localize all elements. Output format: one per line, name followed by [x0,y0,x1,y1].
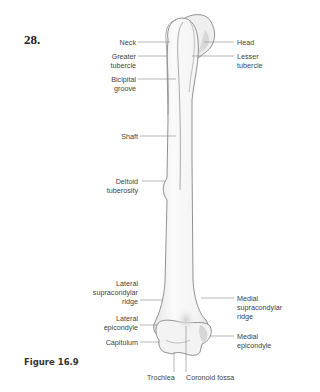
label-head: Head [237,38,254,47]
label-lateral-epicondyle: Lateral epicondyle [104,314,138,332]
label-bicipital-groove: Bicipital groove [111,75,136,93]
label-greater-tubercle: Greater tubercle [110,52,136,70]
label-medial-epicondyle: Medial epicondyle [237,332,271,350]
label-shaft: Shaft [121,132,138,141]
label-lesser-tubercle: Lesser tubercle [237,52,263,70]
label-trochlea: Trochlea [147,373,175,382]
label-lateral-supracondylar-ridge: Lateral supracondylar ridge [93,279,138,306]
label-neck: Neck [120,38,136,47]
humerus-body [154,18,209,338]
label-medial-supracondylar-ridge: Medial supracondylar ridge [237,294,282,321]
label-capitulum: Capitulum [106,338,138,347]
label-deltoid-tuberosity: Deltoid tuberosity [107,177,138,195]
leader-lines-right [192,42,234,336]
figure-caption: Figure 16.9 [24,357,79,367]
label-coronoid-fossa: Coronoid fossa [186,373,234,382]
